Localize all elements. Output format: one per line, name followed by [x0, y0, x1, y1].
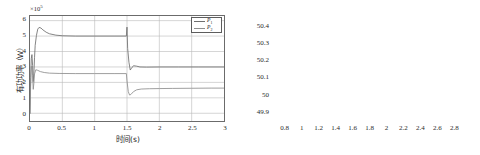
active-power-chart-panel: ×105 0123456 00.511.522.53 有功功率（W） 时间(s)…	[0, 0, 240, 155]
active-power-y-axis-title: 有功功率（W）	[14, 29, 25, 109]
legend-item-p2: P2	[194, 26, 219, 32]
x-tick-label: 2.5	[181, 125, 203, 132]
x-tick-label: 0	[18, 125, 40, 132]
active-power-x-axis-title: 时间(s)	[80, 133, 176, 144]
legend-line-swatch	[194, 28, 205, 29]
x-tick-label: 2.8	[443, 125, 465, 132]
x-tick-label: 3	[214, 125, 236, 132]
y-axis-exponent-multiplier: ×105	[30, 4, 43, 12]
y-tick-label: 50.1	[242, 74, 269, 81]
legend-line-swatch	[194, 21, 205, 22]
y-tick-label: 50.3	[242, 40, 269, 47]
y-tick-label: 50.2	[242, 57, 269, 64]
figure-row: ×105 0123456 00.511.522.53 有功功率（W） 时间(s)…	[0, 0, 480, 155]
y-tick-label: 49.9	[242, 109, 269, 116]
y-tick-label: 6	[0, 16, 26, 23]
frequency-chart-panel: 49.95050.150.250.350.4 0.811.21.41.61.82…	[240, 0, 480, 155]
x-tick-label: 1	[83, 125, 105, 132]
x-tick-label: 2	[149, 125, 171, 132]
x-tick-label: 0.5	[51, 125, 73, 132]
legend-label-p2: P2	[207, 25, 212, 32]
y-tick-label: 0	[0, 111, 26, 118]
y-tick-label: 50.4	[242, 23, 269, 30]
y-tick-label: 50	[242, 92, 269, 99]
active-power-legend: P1 P2	[191, 17, 222, 33]
x-tick-label: 1.5	[116, 125, 138, 132]
